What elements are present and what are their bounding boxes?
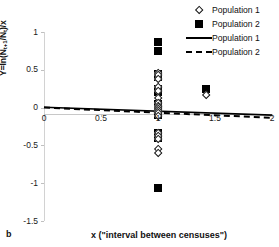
trendline-group <box>44 32 272 221</box>
y-tick-label: 0 <box>8 102 38 112</box>
y-tick-label: 0.5 <box>8 64 38 74</box>
legend-label: Population 2 <box>212 19 260 29</box>
x-tick-label: 1 <box>146 113 170 123</box>
legend-label: Population 1 <box>212 5 260 15</box>
legend-item-population-2-marker: Population 2 <box>186 17 278 31</box>
figure-panel-b: Population 1 Population 2 Population 1 P… <box>0 0 279 247</box>
y-tick-label: -1 <box>8 178 38 188</box>
x-axis-title: x ("interval between censuses") <box>44 230 274 240</box>
x-tick-label: 1.5 <box>203 113 227 123</box>
x-tick-label: 0 <box>32 113 56 123</box>
data-point-population-2 <box>154 184 162 192</box>
panel-label: b <box>6 229 12 239</box>
x-tick-label: 0.5 <box>89 113 113 123</box>
plot-area <box>44 32 272 221</box>
filled-square-icon <box>186 17 212 31</box>
y-tick <box>41 221 44 222</box>
x-tick-label: 2 <box>260 113 279 123</box>
data-point-population-2 <box>154 38 162 46</box>
y-tick-label: -0.5 <box>8 140 38 150</box>
y-tick-label: 1 <box>8 27 38 37</box>
data-point-population-2 <box>154 47 162 55</box>
open-diamond-icon <box>186 3 212 17</box>
y-axis-title: Y=ln(Nt+1/Nt)/x <box>0 0 8 76</box>
legend-item-population-1-marker: Population 1 <box>186 3 278 17</box>
y-tick-label: -1.5 <box>8 216 38 226</box>
